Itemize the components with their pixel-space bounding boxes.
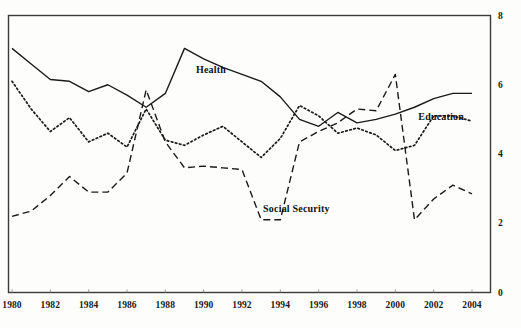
y-tick-label: 0 bbox=[498, 288, 503, 298]
plot-frame bbox=[9, 16, 491, 293]
y-tick-label: 8 bbox=[498, 11, 503, 21]
x-tick-label: 2000 bbox=[386, 300, 405, 310]
x-tick-label: 1980 bbox=[2, 300, 21, 310]
annotation-health: Health bbox=[196, 64, 226, 75]
series-line-health bbox=[12, 48, 472, 126]
x-tick-label: 1986 bbox=[117, 300, 136, 310]
x-tick-label: 2002 bbox=[424, 300, 443, 310]
x-tick-label: 1984 bbox=[79, 300, 98, 310]
series-line-education bbox=[12, 81, 472, 157]
x-tick-label: 1998 bbox=[347, 300, 366, 310]
y-tick-label: 4 bbox=[498, 149, 503, 159]
x-tick-label: 1988 bbox=[156, 300, 175, 310]
x-tick-label: 1992 bbox=[232, 300, 251, 310]
x-tick-label: 1994 bbox=[271, 300, 290, 310]
data-series-group bbox=[12, 48, 472, 219]
y-tick-label: 6 bbox=[498, 80, 503, 90]
annotation-education: Education bbox=[418, 110, 464, 121]
x-tick-label: 1982 bbox=[41, 300, 60, 310]
y-tick-label: 2 bbox=[498, 218, 503, 228]
line-chart: 1980198219841986198819901992199419961998… bbox=[0, 0, 521, 328]
series-line-social-security bbox=[12, 74, 472, 219]
annotation-social-security: Social Security bbox=[263, 202, 330, 213]
plot-border bbox=[9, 16, 491, 293]
x-tick-label: 1990 bbox=[194, 300, 213, 310]
x-tick-label: 2004 bbox=[462, 300, 481, 310]
plot-area bbox=[0, 0, 521, 328]
x-tick-label: 1996 bbox=[309, 300, 328, 310]
